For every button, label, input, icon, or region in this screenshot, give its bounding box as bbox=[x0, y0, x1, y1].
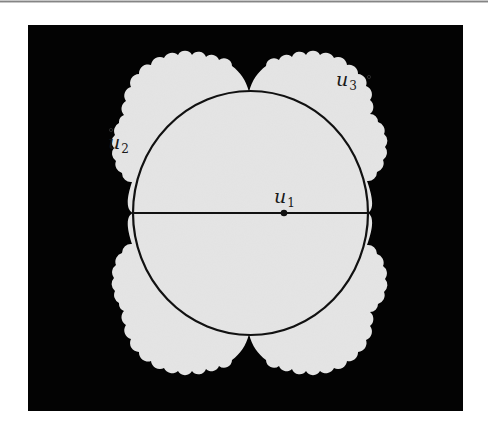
julia-set-figure bbox=[0, 0, 488, 431]
label-u1: u1 bbox=[274, 187, 295, 209]
label-u3: u3 bbox=[336, 70, 357, 92]
point-u1 bbox=[281, 210, 288, 217]
label-u2: u2 bbox=[108, 133, 129, 155]
